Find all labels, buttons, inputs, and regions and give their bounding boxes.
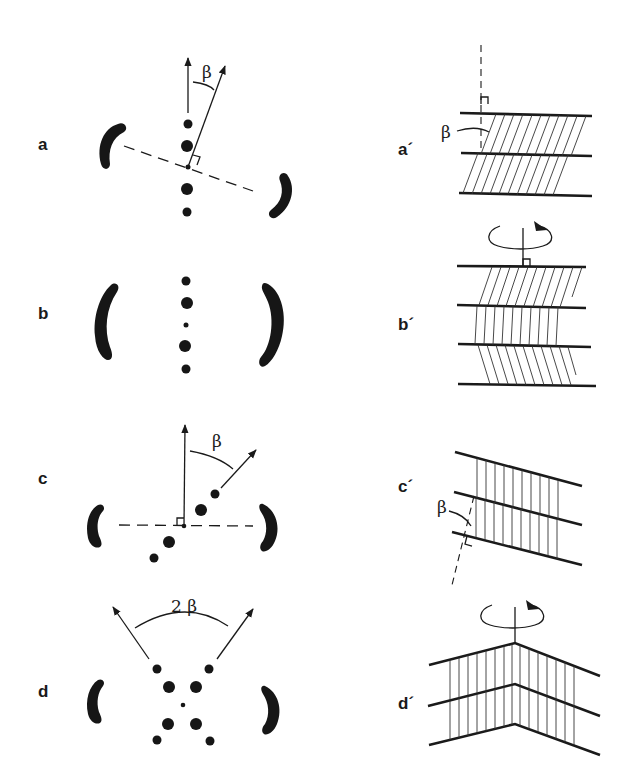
angle-label: β	[441, 122, 451, 142]
panel-label-a-prime: a´	[398, 140, 413, 159]
panel-a-prime: a´	[398, 45, 592, 196]
lamella-boundary	[452, 532, 582, 565]
spot	[153, 665, 162, 674]
panel-label-d-prime: d´	[398, 694, 414, 713]
spot	[190, 718, 202, 730]
spot	[179, 340, 191, 352]
rotation-arrow-icon	[534, 221, 547, 231]
spot	[182, 365, 191, 374]
rotation-arrow-icon	[526, 600, 539, 610]
center-spot	[181, 703, 186, 708]
panel-c: c β	[38, 425, 278, 563]
angle-arc	[190, 451, 233, 469]
angle-label: β	[212, 431, 222, 451]
lamella-boundary	[460, 113, 592, 116]
arc-left	[87, 679, 104, 723]
spot	[195, 504, 207, 516]
panel-b: b	[38, 277, 284, 374]
spot	[206, 737, 215, 746]
tilted-arrow	[221, 450, 256, 488]
arc-right	[269, 173, 292, 218]
spot	[211, 490, 220, 499]
panel-b-prime: b´	[398, 221, 596, 386]
spot	[181, 297, 193, 309]
lamella-boundary	[457, 305, 586, 308]
panel-label-c: c	[38, 469, 47, 488]
arc-left	[95, 284, 119, 360]
right-angle-mark	[177, 518, 184, 525]
spot	[183, 208, 192, 217]
spot	[181, 183, 193, 195]
spot	[190, 681, 202, 693]
panel-label-d: d	[38, 682, 48, 701]
panel-a: a β	[38, 58, 292, 218]
panel-label-b: b	[38, 304, 48, 323]
panel-label-c-prime: c´	[398, 477, 413, 496]
spot	[153, 736, 162, 745]
spot	[162, 718, 174, 730]
spot	[150, 554, 159, 563]
lamella-boundary	[457, 266, 586, 267]
diffraction-diagram: a β b c	[0, 0, 637, 776]
normal-line	[452, 496, 474, 585]
center-spot	[182, 524, 187, 529]
arc-right	[261, 686, 279, 735]
chain-hatching	[475, 267, 582, 385]
arc-left	[100, 123, 127, 169]
angle-arc	[457, 128, 489, 132]
spot	[181, 140, 193, 152]
right-arrow	[217, 609, 253, 659]
axis-arrow	[184, 425, 185, 525]
lamella-boundary	[455, 452, 582, 486]
spot	[184, 120, 193, 129]
angle-label: β	[437, 497, 447, 517]
panel-d: d 2 β	[38, 596, 280, 746]
lamella-boundary	[459, 193, 592, 196]
angle-label: 2 β	[171, 596, 197, 616]
arc-right	[259, 283, 284, 367]
panel-c-prime: c´ β	[398, 452, 582, 585]
center-spot	[184, 323, 189, 328]
right-angle-mark	[193, 155, 200, 165]
right-angle-mark	[481, 97, 488, 104]
panel-label-a: a	[38, 135, 48, 154]
spot	[205, 665, 214, 674]
right-angle-mark	[523, 259, 530, 266]
arc-left	[87, 504, 104, 547]
angle-arc	[193, 82, 214, 90]
arc-right	[259, 504, 277, 552]
panel-d-prime: d´	[398, 600, 600, 755]
angle-label: β	[202, 62, 212, 82]
left-arrow	[113, 607, 149, 659]
panel-label-b-prime: b´	[398, 315, 414, 334]
spot	[182, 277, 191, 286]
lamella-boundary	[458, 384, 596, 386]
spot	[163, 681, 175, 693]
spot	[163, 536, 175, 548]
